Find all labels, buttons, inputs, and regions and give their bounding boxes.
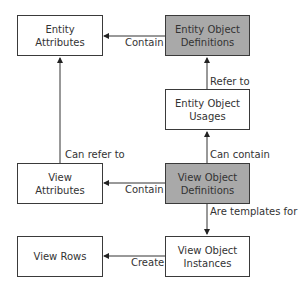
node-view-rows: View Rows [17,236,103,277]
node-view-object-instances: View ObjectInstances [165,236,250,277]
node-label: View Object [178,171,237,184]
node-label: Instances [178,257,237,270]
edge-label-can-contain: Can contain [210,149,270,161]
node-label: Definitions [175,36,240,49]
node-label: Entity [35,23,84,36]
node-label: Definitions [178,184,237,197]
edge-label-can-refer-to: Can refer to [65,149,125,161]
edge-label-are-templates-for: Are templates for [210,206,297,218]
node-label: View Rows [34,250,87,263]
node-label: Usages [175,110,240,123]
node-entity-object-usages: Entity ObjectUsages [165,89,250,130]
edge-label-refer-to: Refer to [210,76,250,88]
node-label: Entity Object [175,23,240,36]
node-label: View Object [178,244,237,257]
node-label: View [35,171,84,184]
node-label: Attributes [35,184,84,197]
edge-label-contain-view: Contain [125,184,164,196]
node-entity-object-definitions: Entity ObjectDefinitions [165,15,250,56]
node-view-attributes: ViewAttributes [17,163,103,204]
node-label: Attributes [35,36,84,49]
edge-label-contain-entity: Contain [125,37,164,49]
node-label: Entity Object [175,97,240,110]
node-view-object-definitions: View ObjectDefinitions [165,163,250,204]
node-entity-attributes: EntityAttributes [17,15,103,56]
edge-label-create: Create [131,257,164,269]
